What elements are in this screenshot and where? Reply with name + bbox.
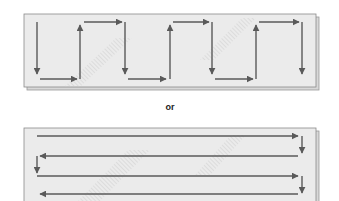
horizontal-serpentine-panel [24,128,319,201]
separator-label: or [158,102,182,112]
vertical-serpentine-panel [24,14,319,90]
scan-pattern-diagram [0,0,339,201]
